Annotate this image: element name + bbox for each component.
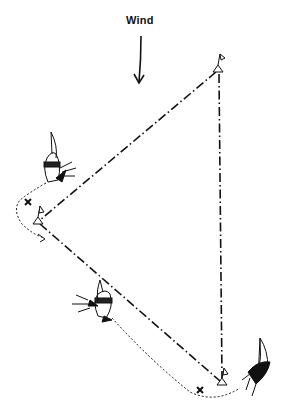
x-marker-leeward — [197, 387, 203, 393]
leg-wing-to-leeward — [40, 224, 220, 381]
race-course-diagram — [0, 0, 288, 413]
boat-tracks — [16, 183, 240, 397]
sailboat-icon — [72, 280, 112, 322]
x-marker-wing — [25, 199, 31, 205]
course-legs — [40, 72, 222, 381]
sailboat-icon — [242, 338, 270, 396]
windward-mark-icon — [213, 54, 225, 72]
track-arrow-icon — [38, 234, 45, 242]
leeward-mark-icon — [217, 368, 228, 385]
leg-windward-to-leeward — [219, 74, 222, 378]
sailboat-icon — [44, 132, 76, 182]
wind-arrow-icon — [134, 36, 144, 83]
leg-windward-to-wing — [40, 72, 216, 220]
wing-mark-icon — [33, 206, 44, 224]
